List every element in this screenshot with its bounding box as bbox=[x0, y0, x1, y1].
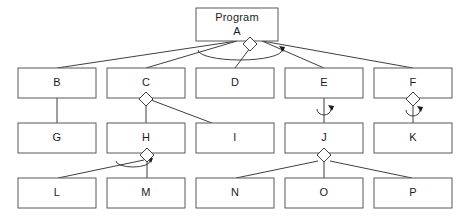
module-label-a: A bbox=[233, 25, 241, 37]
module-label-c: C bbox=[142, 76, 150, 88]
module-label-o: O bbox=[320, 186, 329, 198]
connector-j-p bbox=[330, 161, 412, 178]
module-box-i[interactable]: I bbox=[196, 123, 274, 153]
connector-c-i bbox=[151, 100, 212, 123]
module-label-g: G bbox=[53, 131, 62, 143]
module-box-l[interactable]: L bbox=[18, 178, 96, 208]
module-label-p: P bbox=[409, 186, 417, 198]
module-boxes-layer: ProgramABCDEFGHIJKLMNOP bbox=[18, 8, 452, 208]
module-box-e[interactable]: E bbox=[285, 68, 363, 98]
module-box-b[interactable]: B bbox=[18, 68, 96, 98]
module-label-i: I bbox=[233, 131, 236, 143]
module-box-g[interactable]: G bbox=[18, 123, 96, 153]
connector-a-c bbox=[146, 41, 237, 68]
iteration-loop-icon-a bbox=[198, 50, 282, 60]
module-label-f: F bbox=[410, 76, 417, 88]
connector-a-e bbox=[262, 41, 324, 68]
module-box-k[interactable]: K bbox=[374, 123, 452, 153]
connector-a-f bbox=[262, 41, 413, 68]
module-label-j: J bbox=[321, 131, 327, 143]
module-label-l: L bbox=[54, 186, 60, 198]
structure-chart-canvas: ProgramABCDEFGHIJKLMNOP bbox=[0, 0, 464, 224]
module-label-n: N bbox=[231, 186, 239, 198]
module-box-d[interactable]: D bbox=[196, 68, 274, 98]
module-box-m[interactable]: M bbox=[107, 178, 185, 208]
module-box-n[interactable]: N bbox=[196, 178, 274, 208]
module-label-h: H bbox=[142, 131, 150, 143]
module-box-a[interactable]: ProgramA bbox=[196, 8, 278, 41]
module-label-m: M bbox=[141, 186, 150, 198]
connector-a-b bbox=[57, 41, 237, 68]
module-title-a: Program bbox=[215, 11, 259, 23]
module-label-e: E bbox=[320, 76, 328, 88]
module-label-k: K bbox=[409, 131, 417, 143]
module-box-p[interactable]: P bbox=[374, 178, 452, 208]
connector-a-d bbox=[235, 48, 250, 68]
connector-j-n bbox=[236, 161, 318, 178]
module-box-o[interactable]: O bbox=[285, 178, 363, 208]
module-label-d: D bbox=[231, 76, 239, 88]
structure-chart-container: ProgramABCDEFGHIJKLMNOP bbox=[0, 0, 464, 224]
module-label-b: B bbox=[53, 76, 61, 88]
connector-h-l bbox=[58, 160, 144, 178]
connectors-layer bbox=[57, 41, 413, 178]
